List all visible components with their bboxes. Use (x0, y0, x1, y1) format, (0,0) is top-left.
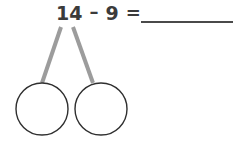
number-bond-diagram (0, 0, 238, 145)
number-bond-left-circle[interactable] (16, 83, 68, 135)
number-bond-right-branch (73, 27, 93, 83)
number-bond-left-branch (42, 27, 61, 83)
worksheet-canvas: 14 – 9 = (0, 0, 238, 145)
number-bond-right-circle[interactable] (75, 83, 127, 135)
